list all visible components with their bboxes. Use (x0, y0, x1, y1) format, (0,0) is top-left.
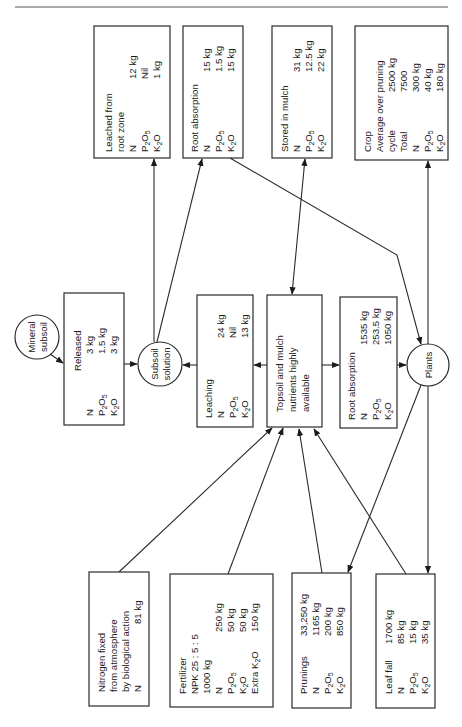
value: 180 kg (434, 63, 445, 92)
node-prunings: Prunings 33,250 kg N 1165 kg P2O5 200 kg… (292, 573, 351, 708)
value: 15 kg (407, 621, 418, 644)
node-plants: Plants (407, 344, 449, 386)
value: 1.5 kg (96, 328, 107, 354)
node-subsoil-solution: Subsoil solution (138, 342, 182, 386)
value: 12 kg (127, 56, 138, 79)
label: subsoil (38, 322, 49, 352)
label: cycle (386, 130, 397, 152)
value: 3 kg (84, 336, 95, 354)
value: 1050 kg (382, 311, 393, 345)
label: nutrients highly (287, 347, 298, 412)
value: 12.5 kg (303, 41, 314, 72)
label: Root absorption (346, 352, 357, 420)
value: 150 kg (249, 603, 260, 632)
label: Released (72, 330, 83, 371)
svg-text:Extra K2O: Extra K2O (249, 651, 261, 694)
value: 85 kg (395, 621, 406, 644)
label: N (201, 145, 212, 152)
edge-fertilizer-to-topsoil (228, 428, 283, 574)
value: 81 kg (132, 601, 143, 624)
node-nitrogen-fixed: Nitrogen fixed from atmosphere by biolog… (89, 572, 149, 706)
value: 253.5 kg (370, 308, 381, 345)
value: 15 kg (225, 49, 236, 72)
value: 13 kg (239, 315, 250, 338)
node-leached-root-zone: Leached from root zone N 12 kg P2O5 Nil … (94, 26, 170, 158)
label: Leaching (203, 379, 214, 418)
nutrient-cycle-diagram: Leached from root zone N 12 kg P2O5 Nil … (0, 0, 462, 727)
label: N (215, 411, 226, 418)
value: 200 kg (322, 607, 333, 636)
value: 31 kg (291, 49, 302, 72)
label: N (84, 409, 95, 416)
value: 2500 kg (386, 58, 397, 92)
label: 1000 kg (201, 660, 212, 694)
label: available (300, 374, 311, 412)
value: 50 kg (225, 609, 236, 632)
label: Topsoil and mulch (274, 335, 285, 412)
value: 50 kg (237, 609, 248, 632)
edge-subsoil-to-rootabs (157, 159, 202, 342)
value: 22 kg (315, 49, 326, 72)
label: N (358, 413, 369, 420)
label: N (410, 145, 421, 152)
value: 33,250 kg (298, 594, 309, 636)
value: Nil (139, 68, 150, 79)
label: N (291, 145, 302, 152)
value: 15 kg (201, 49, 212, 72)
label: Leached from (103, 93, 114, 152)
value: 7500 (398, 71, 409, 92)
value: 300 kg (410, 63, 421, 92)
label: root zone (115, 112, 126, 152)
node-leaching: Leaching N 24 kg P2O5 Nil K2O 13 kg (197, 295, 253, 427)
label: N (127, 145, 138, 152)
edge-mineral-to-released (50, 354, 63, 363)
label: NPK 25 : 5 : 5 (189, 634, 200, 694)
node-released: Released N 3 kg P2O5 1.5 kg K2O 3 kg (64, 293, 124, 425)
label: N (213, 687, 224, 694)
value: 1165 kg (310, 603, 321, 636)
value: 1535 kg (358, 311, 369, 345)
label: N (395, 687, 406, 694)
node-fertilizer: Fertilizer NPK 25 : 5 : 5 1000 kg N 250 … (170, 574, 273, 707)
label: from atmosphere (108, 619, 119, 692)
value: 1 kg (151, 61, 162, 79)
value: Nil (227, 327, 238, 338)
label: Crop (362, 131, 373, 152)
value: 1700 kg (383, 610, 394, 644)
node-topsoil: Topsoil and mulch nutrients highly avail… (267, 295, 322, 427)
node-root-absorption-subsoil: Root absorption N 15 kg P2O5 1.5 kg K2O … (183, 26, 243, 158)
node-crop: Crop Average over pruning cycle 2500 kg … (355, 26, 448, 160)
label: Subsoil (149, 348, 160, 379)
node-leaf-fall: Leaf fall 1700 kg N 85 kg P2O5 15 kg K2O… (376, 574, 435, 708)
label: N (132, 685, 143, 692)
value: 35 kg (419, 621, 430, 644)
edge-leaffall-to-topsoil (314, 429, 406, 574)
edge-prunings-to-topsoil (299, 429, 322, 573)
label: Leaf fall (383, 660, 394, 694)
edge-topsoil-mulch (292, 159, 305, 294)
value: 850 kg (334, 607, 345, 636)
label: Stored in mulch (279, 85, 290, 152)
label: Mineral (26, 321, 37, 352)
value: 250 kg (213, 603, 224, 632)
node-root-absorption-main: Root absorption N 1535 kg P2O5 253.5 kg … (340, 297, 397, 428)
value: 40 kg (422, 69, 433, 92)
value: 1.5 kg (213, 46, 224, 72)
label: Average over pruning (374, 60, 385, 152)
node-mineral-subsoil: Mineral subsoil (15, 315, 59, 359)
value: 3 kg (108, 336, 119, 354)
label: by biological action (120, 611, 131, 692)
label: Plants (423, 351, 434, 378)
label: solution (161, 347, 172, 380)
label: Root absorption (189, 84, 200, 152)
label: Fertilizer (177, 656, 188, 694)
label: Nitrogen fixed (96, 633, 107, 692)
edge-nfixed-to-topsoil (119, 428, 272, 572)
value: 24 kg (215, 315, 226, 338)
label: Prunings (298, 656, 309, 694)
node-stored-in-mulch: Stored in mulch N 31 kg P2O5 12.5 kg K2O… (272, 26, 332, 158)
label: Total (398, 132, 409, 152)
label: N (310, 687, 321, 694)
